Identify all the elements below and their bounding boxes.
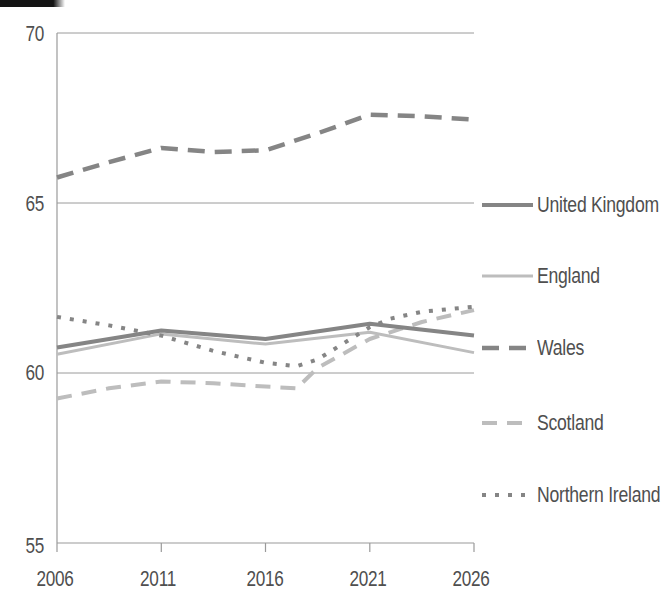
y-axis-label-65: 65 bbox=[14, 191, 44, 217]
legend-swatches bbox=[482, 205, 533, 495]
legend-label-wales: Wales bbox=[537, 335, 584, 361]
axes bbox=[57, 33, 474, 552]
gridlines bbox=[57, 33, 474, 373]
y-axis-label-60: 60 bbox=[14, 360, 44, 386]
y-axis-label-70: 70 bbox=[14, 21, 44, 47]
y-axis-label-55: 55 bbox=[14, 533, 44, 559]
scanned-line-chart-page: 70 65 60 55 2006 2011 2016 2021 2026 Uni… bbox=[0, 0, 667, 613]
line-chart-svg bbox=[0, 0, 667, 613]
series-line-scotland bbox=[57, 310, 474, 398]
legend-label-scotland: Scotland bbox=[537, 410, 604, 436]
x-axis-label-2016: 2016 bbox=[240, 566, 290, 592]
legend-label-northern-ireland: Northern Ireland bbox=[537, 482, 660, 508]
x-axis-label-2021: 2021 bbox=[343, 566, 393, 592]
x-axis-label-2006: 2006 bbox=[30, 566, 80, 592]
x-axis-label-2011: 2011 bbox=[133, 566, 183, 592]
x-axis-label-2026: 2026 bbox=[446, 566, 496, 592]
legend-label-england: England bbox=[537, 263, 600, 289]
series-line-wales bbox=[57, 115, 474, 178]
legend-label-united-kingdom: United Kingdom bbox=[537, 192, 659, 218]
plot-series-lines bbox=[57, 115, 474, 399]
